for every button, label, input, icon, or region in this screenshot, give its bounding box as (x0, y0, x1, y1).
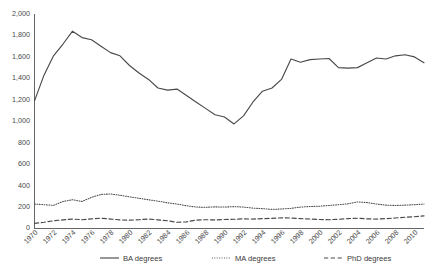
y-tick-label: 800 (18, 138, 30, 147)
x-tick-label: 1984 (155, 228, 173, 246)
chart-plot-area: 2,0001,8001,6001,4001,2001,0008006004002… (0, 0, 430, 273)
legend-label: MA degrees (235, 254, 276, 263)
y-tick-label: 600 (18, 159, 30, 168)
x-tick-label: 1974 (60, 228, 78, 246)
x-tick-label: 1980 (117, 228, 135, 246)
x-tick-label: 2000 (307, 228, 325, 246)
x-tick-label: 1978 (98, 228, 116, 246)
y-tick-label: 200 (18, 202, 30, 211)
x-tick-label: 2004 (345, 228, 363, 246)
x-tick-label: 1994 (250, 228, 268, 246)
x-tick-label: 2006 (364, 228, 382, 246)
series-ma (35, 194, 425, 209)
x-axis-tick-labels: 1970197219741976197819801982198419861988… (22, 228, 420, 246)
series-group (35, 31, 425, 223)
x-tick-label: 1988 (193, 228, 211, 246)
legend-label: BA degrees (123, 254, 162, 263)
y-tick-label: 2,000 (12, 9, 30, 18)
x-tick-label: 1990 (212, 228, 230, 246)
chart-legend: BA degreesMA degreesPhD degrees (100, 254, 392, 263)
y-axis-tick-labels: 2,0001,8001,6001,4001,2001,0008006004002… (12, 9, 30, 233)
x-tick-label: 2010 (402, 228, 420, 246)
x-tick-label: 1992 (231, 228, 249, 246)
x-tick-label: 1996 (269, 228, 287, 246)
x-tick-label: 1982 (136, 228, 154, 246)
y-tick-label: 1,400 (12, 73, 30, 82)
x-tick-label: 1976 (79, 228, 97, 246)
y-tick-label: 1,800 (12, 30, 30, 39)
x-tick-label: 2002 (326, 228, 344, 246)
y-tick-label: 1,000 (12, 116, 30, 125)
y-tick-label: 1,600 (12, 52, 30, 61)
y-tick-label: 400 (18, 181, 30, 190)
x-tick-label: 1970 (22, 228, 40, 246)
x-tick-label: 1998 (288, 228, 306, 246)
series-phd (35, 216, 425, 224)
legend-label: PhD degrees (347, 254, 392, 263)
series-ba (35, 31, 425, 124)
x-tick-label: 1972 (41, 228, 59, 246)
line-chart: 2,0001,8001,6001,4001,2001,0008006004002… (0, 0, 430, 273)
x-tick-label: 2008 (383, 228, 401, 246)
x-tick-label: 1986 (174, 228, 192, 246)
y-tick-label: 1,200 (12, 95, 30, 104)
